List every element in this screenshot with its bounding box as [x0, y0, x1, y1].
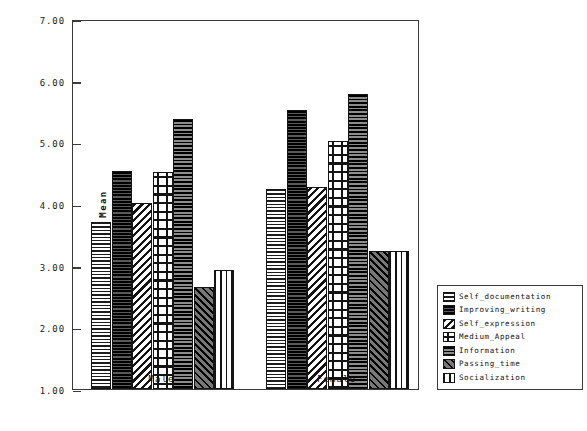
y-axis-tick-label: 6.00: [40, 78, 73, 88]
legend-item-label: Self_expression: [459, 319, 536, 329]
legend-item[interactable]: Information: [443, 344, 578, 357]
legend-item[interactable]: Passing_time: [443, 358, 578, 371]
legend-swatch-icon: [443, 319, 455, 329]
legend-item-label: Socialization: [459, 373, 526, 383]
legend-item-label: Passing_time: [459, 359, 520, 369]
bar[interactable]: [369, 251, 389, 389]
legend-swatch-icon: [443, 373, 455, 383]
y-axis-tick-label: 5.00: [40, 139, 73, 149]
y-axis-tick-label: 7.00: [40, 16, 73, 26]
legend-item-label: Medium_Appeal: [459, 332, 526, 342]
bar[interactable]: [287, 110, 307, 389]
legend-item[interactable]: Socialization: [443, 371, 578, 384]
legend-item-label: Information: [459, 346, 515, 356]
y-axis-tick-label: 1.00: [40, 386, 73, 396]
bars-layer: [73, 21, 418, 389]
bar[interactable]: [153, 172, 173, 389]
legend-item-label: Self_documentation: [459, 292, 551, 302]
bar[interactable]: [112, 171, 132, 389]
bar[interactable]: [91, 222, 111, 389]
bar[interactable]: [214, 270, 234, 389]
bar-group-female: [266, 21, 409, 389]
legend-swatch-icon: [443, 359, 455, 369]
plot-area: Mean 1.002.003.004.005.006.007.00: [72, 20, 419, 390]
bar[interactable]: [194, 287, 214, 389]
legend-item[interactable]: Self_documentation: [443, 290, 578, 303]
bar-group-male: [91, 21, 234, 389]
legend-swatch-icon: [443, 305, 455, 315]
y-axis-tick-mark: [73, 391, 81, 393]
legend-item-label: Improving_writing: [459, 305, 546, 315]
bar-chart: Mean 1.002.003.004.005.006.007.00 MaleFe…: [0, 0, 587, 431]
bar[interactable]: [132, 203, 152, 389]
y-axis-tick-label: 2.00: [40, 324, 73, 334]
legend-item[interactable]: Improving_writing: [443, 304, 578, 317]
y-axis-tick-label: 4.00: [40, 201, 73, 211]
legend-swatch-icon: [443, 346, 455, 356]
bar[interactable]: [348, 94, 368, 389]
y-axis-tick-label: 3.00: [40, 263, 73, 273]
bar[interactable]: [328, 141, 348, 389]
legend: Self_documentationImproving_writingSelf_…: [437, 285, 583, 390]
bar[interactable]: [307, 187, 327, 389]
bar[interactable]: [266, 189, 286, 389]
legend-item[interactable]: Medium_Appeal: [443, 331, 578, 344]
x-axis-label-female: Female: [317, 374, 356, 384]
legend-swatch-icon: [443, 332, 455, 342]
bar[interactable]: [173, 119, 193, 389]
x-axis-label-male: Male: [148, 374, 174, 384]
legend-item[interactable]: Self_expression: [443, 317, 578, 330]
legend-swatch-icon: [443, 292, 455, 302]
bar[interactable]: [389, 251, 409, 389]
